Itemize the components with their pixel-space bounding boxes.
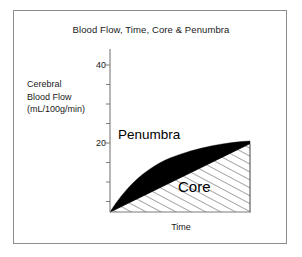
figure-root: Blood Flow, Time, Core & Penumbra Cerebr…	[0, 0, 302, 257]
y-axis-ticks	[105, 65, 111, 202]
x-axis-label: Time	[110, 222, 252, 232]
core-label: Core	[178, 178, 211, 195]
penumbra-label: Penumbra	[118, 127, 180, 142]
